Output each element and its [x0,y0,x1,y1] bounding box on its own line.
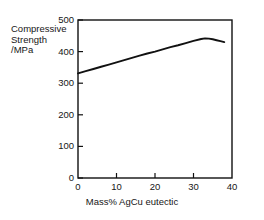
y-axis-label: Compressive Strength /MPa [11,24,66,56]
y-axis-label-line-1: Compressive [11,24,66,35]
y-axis-label-line-3: /MPa [11,45,66,56]
x-tick-label-20: 20 [143,182,167,192]
x-axis-ticks [117,173,194,178]
y-axis-ticks [78,20,83,178]
series-line-compressive-strength [78,38,224,73]
x-axis-label: Mass% AgCu eutectic [0,196,264,207]
plot-frame [78,20,232,178]
y-tick-label-100: 100 [44,141,74,151]
x-tick-label-30: 30 [182,182,206,192]
x-tick-label-40: 40 [220,182,244,192]
x-tick-label-0: 0 [66,182,90,192]
y-tick-label-200: 200 [44,110,74,120]
chart-figure: 500 400 300 200 100 0 0 10 20 30 40 Comp… [0,0,264,220]
y-tick-label-300: 300 [44,78,74,88]
x-tick-label-10: 10 [105,182,129,192]
